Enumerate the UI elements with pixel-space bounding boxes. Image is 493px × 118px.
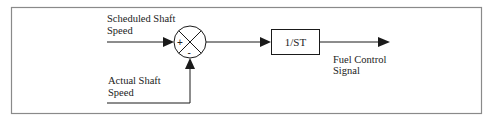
feedback-arrowhead (185, 58, 195, 69)
reference-label-line2: Speed (107, 25, 133, 36)
reference-label-line1: Scheduled Shaft (107, 13, 176, 24)
feedback-label-line1: Actual Shaft (108, 75, 161, 86)
integrator-block-label: 1/ST (285, 36, 307, 48)
minus-sign: - (188, 47, 191, 58)
summing-junction: + - (174, 26, 206, 58)
diagram-frame (12, 8, 482, 114)
output-label-line1: Fuel Control (333, 54, 386, 65)
reference-input-arrowhead (163, 37, 174, 47)
output-label-line2: Signal (333, 65, 360, 76)
output-arrowhead (378, 37, 390, 47)
error-signal-arrowhead (260, 37, 271, 47)
block-diagram: Scheduled Shaft Speed + - Actual Shaft S… (0, 0, 493, 118)
plus-sign: + (177, 37, 183, 48)
feedback-label-line2: Speed (108, 87, 134, 98)
